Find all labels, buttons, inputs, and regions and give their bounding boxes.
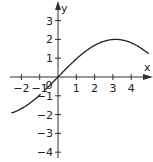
x-axis-label: x <box>144 61 151 74</box>
y-tick-label: 2 <box>46 33 53 46</box>
x-tick-label: −2 <box>13 82 29 95</box>
x-tick-label: 4 <box>128 82 135 95</box>
x-tick-label: 1 <box>73 82 80 95</box>
y-tick-label: −4 <box>37 146 53 159</box>
x-tick-label: 2 <box>91 82 98 95</box>
function-graph: xy−2−112340−4−3−2−1123 <box>0 0 153 162</box>
y-axis-label: y <box>61 2 68 15</box>
y-tick-label: 3 <box>46 15 53 28</box>
y-tick-label: −3 <box>37 127 53 140</box>
y-tick-label: −2 <box>37 109 53 122</box>
x-axis-arrow-icon <box>143 74 153 80</box>
x-tick-label: 3 <box>109 82 116 95</box>
y-tick-label: 1 <box>46 52 53 65</box>
